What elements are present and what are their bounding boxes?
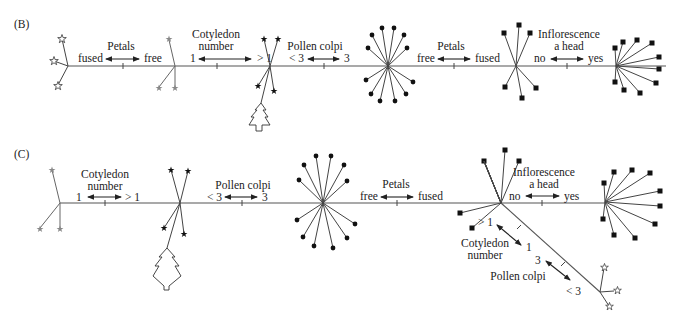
dot-icon <box>345 236 350 241</box>
solid-star-icon <box>161 224 168 231</box>
panel-label-c: (C) <box>14 148 30 161</box>
square-icon <box>654 81 659 86</box>
state-left: 1 <box>76 191 82 203</box>
node-squares-b <box>502 23 539 101</box>
state-left: free <box>360 190 378 202</box>
character-title-line2: number <box>87 180 122 192</box>
character-pollen-c: Pollen colpi < 3 3 <box>207 179 271 206</box>
branch-character-cotyledon-c: > 1 1 Cotyledon number <box>461 216 532 261</box>
open-star-icon <box>54 82 63 90</box>
square-icon <box>528 31 533 36</box>
square-icon <box>633 236 638 241</box>
dot-icon <box>369 92 374 97</box>
state-right: fused <box>418 190 443 202</box>
character-inflorescence-b: Inflorescence a head no yes <box>534 28 604 69</box>
square-icon <box>622 88 627 93</box>
dot-icon <box>370 33 375 38</box>
dot-icon <box>295 218 300 223</box>
character-inflorescence-c: Inflorescence a head no yes <box>509 166 580 206</box>
dot-icon <box>353 222 358 227</box>
panel-c: (C) Cotyledon number 1 > 1 <box>14 148 663 310</box>
solid-star-icon <box>255 82 262 89</box>
square-icon <box>601 217 606 222</box>
square-icon <box>503 148 508 153</box>
character-petals-c: Petals free fused <box>360 178 443 206</box>
solid-star-icon <box>168 166 175 173</box>
square-icon <box>502 31 507 36</box>
character-title-line2: a head <box>554 40 584 52</box>
tree-icon <box>249 103 270 131</box>
character-petals-b2: Petals free fused <box>417 40 500 69</box>
square-icon <box>612 233 617 238</box>
dot-icon <box>297 178 302 183</box>
open-star-icon <box>601 263 609 270</box>
state-right: > 1 <box>257 52 272 64</box>
dot-icon <box>314 154 319 159</box>
character-title: Petals <box>382 178 410 190</box>
state-right: > 1 <box>125 191 140 203</box>
square-icon <box>657 55 662 60</box>
state-left: no <box>534 52 546 64</box>
branch-character-pollen-c: 3 < 3 Pollen colpi <box>490 254 581 297</box>
character-title-line2: a head <box>529 178 559 190</box>
character-petals-b1: Petals fused free <box>78 40 162 69</box>
state-upper: 3 <box>535 254 541 266</box>
dot-icon <box>393 99 398 104</box>
state-upper: > 1 <box>478 216 493 228</box>
square-icon <box>638 91 643 96</box>
state-right: yes <box>588 52 604 65</box>
solid-star-icon <box>181 230 188 237</box>
dot-icon <box>366 46 371 51</box>
dot-icon <box>405 46 410 51</box>
square-icon <box>503 85 508 90</box>
state-left: free <box>417 52 435 64</box>
square-icon <box>657 67 662 72</box>
solid-star-icon <box>275 35 282 42</box>
dot-icon <box>380 26 385 31</box>
state-left: 1 <box>190 52 196 64</box>
grey-star-icon <box>172 84 179 91</box>
square-icon <box>613 46 618 51</box>
character-title-line2: number <box>198 40 233 52</box>
dot-icon <box>312 244 317 249</box>
phylogeny-figure: (B) Petals fused free <box>0 0 684 321</box>
node-dots-b <box>364 26 416 104</box>
character-cotyledon-b: Cotyledon number 1 > 1 <box>190 28 272 69</box>
double-arrow-icon <box>546 261 570 280</box>
state-left: fused <box>78 52 103 64</box>
node-grey-stars-c <box>37 166 64 232</box>
grey-star-icon <box>156 84 163 91</box>
dot-icon <box>364 78 369 83</box>
character-title: Pollen colpi <box>490 270 545 283</box>
square-icon <box>658 189 663 194</box>
square-icon <box>650 41 655 46</box>
dot-icon <box>301 235 306 240</box>
tree-icon <box>153 248 181 290</box>
square-icon <box>635 38 640 43</box>
node-solid-stars-b <box>249 35 281 131</box>
square-icon <box>630 168 635 173</box>
dot-icon <box>331 246 336 251</box>
node-head-c <box>601 168 663 241</box>
character-pollen-b: Pollen colpi < 3 3 <box>287 40 350 69</box>
square-icon <box>458 211 463 216</box>
state-left: < 3 <box>207 191 222 203</box>
dot-icon <box>411 80 416 85</box>
dot-icon <box>342 163 347 168</box>
square-icon <box>612 170 617 175</box>
dot-icon <box>302 163 307 168</box>
character-title-line2: number <box>467 249 502 261</box>
solid-star-icon <box>271 87 278 94</box>
square-icon <box>520 96 525 101</box>
state-right: yes <box>564 190 580 203</box>
open-star-icon <box>58 35 67 43</box>
open-star-icon <box>606 302 614 309</box>
state-lower: < 3 <box>566 285 581 297</box>
dot-icon <box>345 179 350 184</box>
grey-star-icon <box>37 225 44 232</box>
state-right: fused <box>475 52 500 64</box>
state-left: no <box>509 190 521 202</box>
dot-icon <box>329 154 334 159</box>
character-title: Petals <box>437 40 465 52</box>
state-right: 3 <box>262 191 268 203</box>
